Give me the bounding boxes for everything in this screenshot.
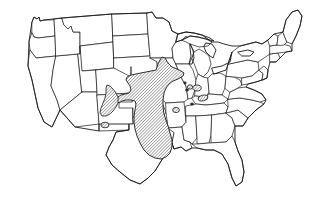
region-northeast [226, 10, 302, 85]
region-southeast [182, 76, 266, 186]
state-north-dakota [112, 13, 148, 36]
marker-illinois-mid [184, 82, 187, 85]
spot-missouri [173, 107, 180, 112]
marker-illinois-west [190, 102, 194, 105]
state-alabama [196, 115, 212, 144]
marker-wisconsin-west [185, 88, 189, 91]
state-arkansas [166, 102, 186, 128]
state-south-dakota [113, 34, 150, 58]
spot-new-mexico [101, 122, 109, 128]
map-canvas [0, 0, 323, 218]
state-connecticut-rhode-island [270, 53, 280, 62]
spot-illinois-central [187, 85, 192, 89]
spot-wisconsin [193, 85, 201, 91]
state-michigan-lower [192, 49, 211, 77]
state-vermont [268, 34, 278, 46]
us-distribution-map-figure [0, 0, 323, 218]
state-wyoming [80, 42, 114, 71]
state-florida [192, 136, 244, 186]
state-ohio [208, 73, 226, 95]
